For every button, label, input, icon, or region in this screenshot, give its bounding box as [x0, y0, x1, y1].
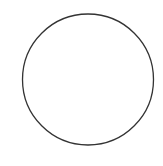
diagram-canvas	[0, 0, 163, 166]
circle-outline	[23, 14, 154, 145]
circle-diagram	[0, 0, 163, 166]
